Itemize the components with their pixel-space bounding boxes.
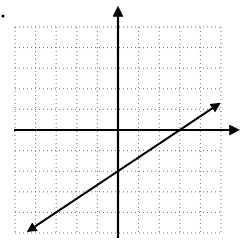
linear-function-line — [28, 104, 219, 231]
coordinate-plane — [0, 0, 244, 247]
bullet-marker — [1, 14, 4, 17]
